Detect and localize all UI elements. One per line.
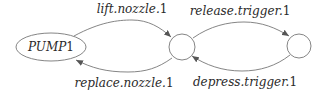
node-state-1 (169, 34, 195, 60)
edge-replace-nozzle (76, 58, 172, 72)
node-state-2 (287, 34, 311, 58)
edge-label-depress-trigger: depress.trigger.1 (193, 75, 297, 89)
edge-label-replace-nozzle: replace.nozzle.1 (74, 76, 173, 90)
edge-depress-trigger (192, 55, 290, 71)
edge-release-trigger (193, 22, 289, 38)
edge-label-lift-nozzle: lift.nozzle.1 (97, 2, 168, 16)
edge-label-release-trigger: release.trigger.1 (190, 4, 291, 18)
node-label-pump1: PUMP1 (27, 40, 74, 54)
state-diagram: PUMP1 lift.nozzle.1 replace.nozzle.1 rel… (0, 0, 329, 94)
edge-lift-nozzle (74, 20, 171, 37)
